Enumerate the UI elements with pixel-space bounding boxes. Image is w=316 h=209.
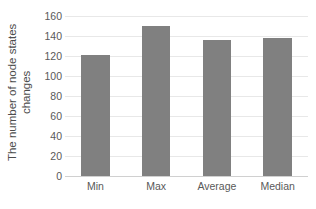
- y-axis-tick-label: 100: [44, 70, 62, 82]
- y-axis-title-line-2: changes: [20, 71, 34, 114]
- bar-average[interactable]: [203, 40, 232, 176]
- plot-area: [65, 16, 308, 176]
- y-axis-tick-label: 80: [50, 90, 62, 102]
- y-axis-title: The number of node states changes: [0, 0, 40, 185]
- bar-slot: [65, 16, 126, 176]
- x-axis-tick-labels: MinMaxAverageMedian: [65, 180, 308, 192]
- y-axis-tick-label: 160: [44, 10, 62, 22]
- x-axis-label-min: Min: [65, 180, 126, 192]
- y-axis-tick-label: 20: [50, 150, 62, 162]
- x-axis-label-max: Max: [126, 180, 187, 192]
- bars-group: [65, 16, 308, 176]
- y-axis-tick-label: 60: [50, 110, 62, 122]
- bar-max[interactable]: [142, 26, 171, 176]
- y-axis-tick-label: 120: [44, 50, 62, 62]
- bar-slot: [126, 16, 187, 176]
- y-axis-tick-labels: 020406080100120140160: [38, 10, 62, 182]
- gridline-0: [65, 176, 308, 177]
- x-axis-label-median: Median: [247, 180, 308, 192]
- bar-slot: [247, 16, 308, 176]
- y-axis-tick-label: 140: [44, 30, 62, 42]
- bar-slot: [187, 16, 248, 176]
- bar-min[interactable]: [81, 55, 110, 176]
- y-axis-title-line-1: The number of node states: [6, 24, 20, 161]
- y-axis-tick-label: 40: [50, 130, 62, 142]
- y-axis-tick-label: 0: [56, 170, 62, 182]
- bar-median[interactable]: [263, 38, 292, 176]
- x-axis-label-average: Average: [187, 180, 248, 192]
- bar-chart: The number of node states changes 020406…: [0, 0, 316, 209]
